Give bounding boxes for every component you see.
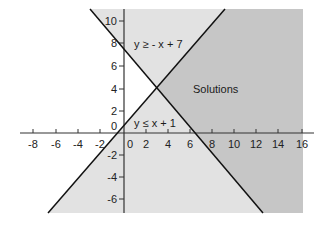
inequality-graph: -8 -6 -4 -2 0 2 4 6 8 10 12 14 16 10 8 6… [0, 0, 331, 226]
svg-text:16: 16 [296, 138, 308, 150]
svg-text:10: 10 [228, 138, 240, 150]
svg-text:6: 6 [187, 138, 193, 150]
svg-text:-8: -8 [28, 138, 38, 150]
svg-text:4: 4 [111, 83, 117, 95]
svg-text:10: 10 [105, 15, 117, 27]
svg-text:4: 4 [165, 138, 171, 150]
svg-text:14: 14 [272, 138, 284, 150]
svg-text:8: 8 [111, 37, 117, 49]
svg-text:-2: -2 [95, 138, 105, 150]
label-inequality-2: y ≤ x + 1 [134, 117, 176, 129]
label-inequality-1: y ≥ - x + 7 [134, 38, 183, 50]
svg-text:-4: -4 [73, 138, 83, 150]
svg-text:-4: -4 [107, 171, 117, 183]
svg-text:-6: -6 [107, 193, 117, 205]
svg-text:8: 8 [209, 138, 215, 150]
svg-text:-6: -6 [51, 138, 61, 150]
svg-text:6: 6 [111, 60, 117, 72]
svg-text:0: 0 [111, 120, 117, 132]
svg-text:-2: -2 [107, 149, 117, 161]
svg-text:2: 2 [111, 105, 117, 117]
svg-text:0: 0 [127, 138, 133, 150]
svg-text:12: 12 [250, 138, 262, 150]
svg-text:2: 2 [143, 138, 149, 150]
label-solutions: Solutions [193, 83, 239, 95]
